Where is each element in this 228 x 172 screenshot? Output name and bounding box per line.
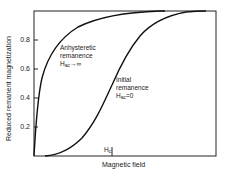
anhysteretic-line2: remanence (60, 52, 96, 60)
hc-label: Hc (104, 146, 111, 155)
y-tick-label-0.8: 0.8 (12, 36, 30, 44)
initial-remanence-annotation: Initial remanence Hac=0 (116, 76, 149, 101)
y-tick-label-0.2: 0.2 (12, 123, 30, 131)
initial-field: Hac=0 (116, 92, 149, 101)
hc-subscript: c (109, 148, 112, 154)
y-tick-label-0.4: 0.4 (12, 94, 30, 102)
field-relation: =0 (126, 92, 133, 99)
anhysteretic-annotation: Anhysteretic remanence Hac→∞ (60, 44, 96, 69)
anhysteretic-line1: Anhysteretic (60, 44, 96, 52)
x-axis-label: Magnetic field (102, 160, 145, 169)
field-relation: →∞ (70, 60, 81, 67)
initial-line1: Initial (116, 76, 149, 84)
y-tick-label-0.6: 0.6 (12, 65, 30, 73)
anhysteretic-field: Hac→∞ (60, 60, 96, 69)
chart-canvas (0, 0, 228, 172)
initial-line2: remanence (116, 84, 149, 92)
